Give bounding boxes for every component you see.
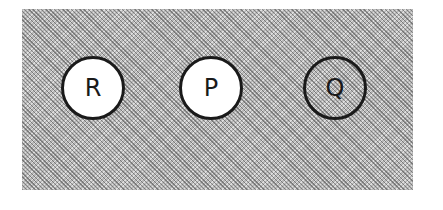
node-p-label: P <box>204 76 218 100</box>
node-r: R <box>61 56 125 120</box>
node-q-label: Q <box>326 76 345 100</box>
node-p: P <box>179 56 243 120</box>
node-q: Q <box>303 56 367 120</box>
node-r-label: R <box>85 76 102 100</box>
